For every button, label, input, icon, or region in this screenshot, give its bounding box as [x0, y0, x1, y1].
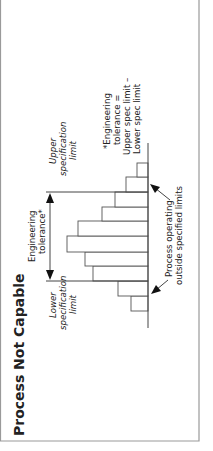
pointer-arrow-icon-lower [151, 280, 168, 294]
histogram [67, 163, 148, 311]
histogram-bar [85, 252, 148, 266]
histogram-bar [118, 281, 148, 296]
process-not-capable-diagram: Process Not Capable Engineering toleranc… [0, 0, 213, 451]
diagram-title: Process Not Capable [11, 273, 27, 436]
tolerance-double-arrow-icon [46, 193, 54, 280]
histogram-bar [102, 207, 148, 221]
tolerance-footnote: *Engineering tolerance = Upper spec limi… [102, 75, 142, 155]
histogram-bar [78, 221, 148, 236]
pointer-arrow-icon-upper [150, 184, 170, 200]
histogram-bar [126, 177, 148, 192]
tolerance-label: Engineering tolerance* [27, 208, 47, 262]
histogram-bar [93, 266, 148, 281]
upper-spec-label: Upper specification limit [48, 119, 78, 176]
process-outside-note: Process operating outside specified limi… [164, 185, 184, 285]
histogram-bar [67, 236, 148, 252]
histogram-bar [131, 296, 148, 311]
histogram-bar [137, 163, 148, 177]
histogram-bar [115, 192, 148, 207]
